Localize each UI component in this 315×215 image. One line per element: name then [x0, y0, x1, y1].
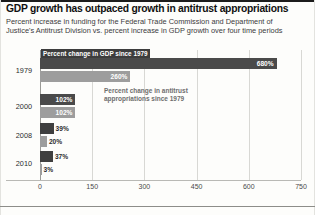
x-axis-line — [6, 180, 301, 181]
bar-value-label: 680% — [257, 58, 274, 69]
figure-subtitle: Percent increase in funding for the Fede… — [6, 17, 292, 35]
x-axis-tick-label: 300 — [139, 183, 151, 190]
top-rule — [0, 0, 315, 2]
bar-value-label: 102% — [56, 94, 73, 105]
x-axis-tick-label: 600 — [243, 183, 255, 190]
gridline — [249, 50, 250, 180]
bar-value-label: 39% — [56, 123, 69, 134]
bar-2008-antitrust — [40, 136, 47, 147]
bar-1979-gdp — [40, 58, 277, 69]
gridline — [92, 50, 93, 180]
bar-2010-antitrust — [40, 164, 42, 175]
gridline — [301, 50, 302, 180]
y-axis-category-label: 2000 — [6, 102, 32, 111]
x-axis-tick-label: 450 — [191, 183, 203, 190]
y-axis-category-label: 2010 — [6, 159, 32, 168]
y-axis-category-label: 1979 — [6, 66, 32, 75]
bar-value-label: 37% — [55, 151, 68, 162]
plot-region — [40, 50, 301, 180]
x-axis-tick-label: 750 — [295, 183, 307, 190]
legend-gdp-label: Percent change in GDP since 1979 — [41, 49, 150, 58]
left-edge — [0, 0, 1, 215]
bar-2008-gdp — [40, 123, 54, 134]
bar-2010-gdp — [40, 151, 53, 162]
x-axis-tick-label: 0 — [38, 183, 42, 190]
gridline — [197, 50, 198, 180]
bar-value-label: 3% — [44, 164, 54, 175]
y-axis-category-label: 2008 — [6, 131, 32, 140]
chart-area: 01503004506007501979680%260%2000102%102%… — [6, 50, 309, 202]
page-title: GDP growth has outpaced growth in antitr… — [6, 3, 309, 14]
bar-value-label: 102% — [56, 107, 73, 118]
legend-antitrust-label: Percent change in antitrust appropriatio… — [104, 87, 200, 103]
right-edge — [314, 0, 315, 215]
bar-value-label: 20% — [49, 136, 62, 147]
chart-figure: GDP growth has outpaced growth in antitr… — [0, 0, 315, 215]
bottom-rule — [0, 206, 315, 207]
x-axis-tick-label: 150 — [86, 183, 98, 190]
bar-value-label: 260% — [111, 71, 128, 82]
figure-header: GDP growth has outpaced growth in antitr… — [6, 3, 309, 35]
gridline — [144, 50, 145, 180]
